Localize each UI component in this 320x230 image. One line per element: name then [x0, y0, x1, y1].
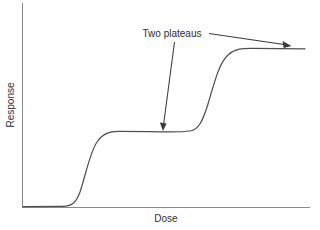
plot-canvas: Two plateaus Dose Response — [0, 0, 320, 230]
annotation-arrow-right-head-icon — [283, 41, 292, 48]
y-axis-title: Response — [5, 82, 16, 127]
annotation-arrow-left-shaft — [164, 42, 175, 125]
x-axis-title: Dose — [154, 213, 178, 224]
annotation-label: Two plateaus — [143, 28, 202, 39]
dose-response-figure: Two plateaus Dose Response — [0, 0, 320, 230]
annotation-arrow-left-head-icon — [160, 123, 167, 131]
annotation-arrow-right-shaft — [209, 34, 284, 45]
